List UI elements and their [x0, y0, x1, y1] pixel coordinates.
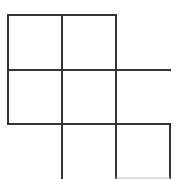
- grid-lines: [0, 0, 180, 179]
- grid-diagram: [0, 0, 180, 179]
